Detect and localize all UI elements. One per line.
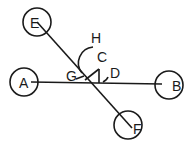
angle-d-label: D — [110, 65, 120, 81]
node-e-label: E — [30, 15, 39, 31]
angle-c-label: C — [97, 49, 107, 65]
node-a-label: A — [19, 75, 29, 91]
angle-g-marker — [76, 76, 84, 79]
angle-g-label: G — [66, 68, 77, 84]
angle-h-label: H — [91, 30, 101, 46]
node-f-label: F — [133, 121, 142, 137]
angle-h-arc — [78, 47, 93, 73]
angle-d-arc — [103, 77, 108, 82]
line-a-b — [31, 82, 162, 84]
angle-c-marker-diag — [85, 69, 99, 80]
angle-diagram: E A B F H C D G — [0, 0, 195, 152]
node-b-label: B — [172, 78, 181, 94]
